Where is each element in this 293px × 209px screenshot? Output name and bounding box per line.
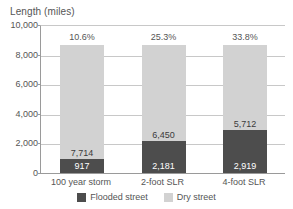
stacked-bar-chart: Length (miles) 10,000 8,000 6,000 4,000 … bbox=[0, 0, 293, 209]
bar-segment-flooded-0[interactable]: 917 bbox=[60, 159, 104, 173]
bar-value-label-dry-0: 7,714 bbox=[60, 148, 104, 158]
bar-percent-label-0: 10.6% bbox=[60, 32, 104, 42]
y-tick-label-6000: 6,000 bbox=[2, 79, 38, 89]
bar-value-label-flooded-0: 917 bbox=[60, 161, 104, 171]
legend-label-dry-street: Dry street bbox=[177, 192, 216, 202]
legend-swatch-dry-icon bbox=[164, 193, 173, 202]
legend-swatch-flooded-icon bbox=[77, 193, 86, 202]
legend-label-flooded-street: Flooded street bbox=[90, 192, 148, 202]
bar-group-100-year-storm[interactable]: 10.6% 7,714 917 bbox=[60, 45, 104, 173]
bar-value-label-flooded-1: 2,181 bbox=[142, 161, 186, 171]
bar-group-2-foot-slr[interactable]: 25.3% 6,450 2,181 bbox=[142, 45, 186, 173]
y-tick-label-10000: 10,000 bbox=[2, 20, 38, 30]
legend-item-flooded-street[interactable]: Flooded street bbox=[77, 192, 148, 202]
x-category-label-4-foot-slr: 4-foot SLR bbox=[189, 177, 293, 187]
bar-value-label-flooded-2: 2,919 bbox=[223, 161, 267, 171]
bar-value-label-dry-1: 6,450 bbox=[142, 130, 186, 140]
x-axis-line bbox=[40, 173, 285, 174]
bar-segment-dry-2[interactable]: 5,712 bbox=[223, 45, 267, 130]
bar-segment-flooded-1[interactable]: 2,181 bbox=[142, 141, 186, 173]
bar-segment-dry-1[interactable]: 6,450 bbox=[142, 45, 186, 141]
y-tick-label-2000: 2,000 bbox=[2, 138, 38, 148]
plot-area: 10.6% 7,714 917 25.3% 6,450 2,181 33.8% … bbox=[40, 25, 285, 173]
y-tick-label-4000: 4,000 bbox=[2, 109, 38, 119]
y-tick-label-8000: 8,000 bbox=[2, 50, 38, 60]
bar-group-4-foot-slr[interactable]: 33.8% 5,712 2,919 bbox=[223, 45, 267, 173]
bar-segment-dry-0[interactable]: 7,714 bbox=[60, 45, 104, 159]
legend-item-dry-street[interactable]: Dry street bbox=[164, 192, 216, 202]
bar-segment-flooded-2[interactable]: 2,919 bbox=[223, 130, 267, 173]
chart-legend: Flooded street Dry street bbox=[0, 192, 293, 202]
bar-percent-label-2: 33.8% bbox=[223, 32, 267, 42]
bar-value-label-dry-2: 5,712 bbox=[223, 119, 267, 129]
bar-percent-label-1: 25.3% bbox=[142, 32, 186, 42]
